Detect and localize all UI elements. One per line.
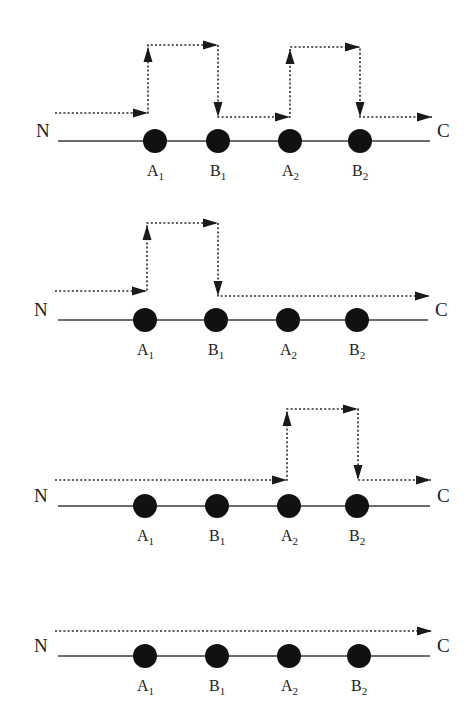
panel-2: A1B1A2B2NC: [34, 219, 448, 362]
start-label-n: N: [34, 485, 48, 506]
arrow-right-icon: [275, 113, 290, 122]
arrow-right-icon: [132, 287, 147, 296]
route-path: [55, 223, 430, 296]
node-a2: [277, 644, 301, 668]
arrow-right-icon: [203, 41, 218, 50]
node-label: B1: [209, 527, 225, 547]
arrow-right-icon: [203, 219, 218, 228]
node-a1: [143, 129, 167, 153]
node-b2: [347, 644, 371, 668]
end-label-c: C: [437, 485, 450, 506]
node-label: A1: [147, 162, 164, 182]
end-label-c: C: [437, 120, 450, 141]
end-label-c: C: [435, 299, 448, 320]
arrow-right-icon: [417, 627, 432, 636]
node-b1: [205, 494, 229, 518]
panel-3: A1B1A2B2NC: [34, 405, 450, 548]
node-label: B2: [349, 527, 365, 547]
arrow-right-icon: [415, 292, 430, 301]
arrow-right-icon: [343, 405, 358, 414]
arrow-right-icon: [345, 43, 360, 52]
arrow-up-icon: [144, 47, 153, 62]
arrow-down-icon: [214, 281, 223, 296]
end-label-c: C: [437, 635, 450, 656]
node-b1: [206, 129, 230, 153]
arrow-up-icon: [283, 411, 292, 426]
node-a2: [276, 308, 300, 332]
node-label: A1: [137, 527, 154, 547]
node-label: B2: [349, 341, 365, 361]
diagram-stage: A1B1A2B2NCA1B1A2B2NCA1B1A2B2NCA1B1A2B2NC: [0, 0, 474, 725]
arrow-right-icon: [416, 476, 431, 485]
arrow-down-icon: [356, 102, 365, 117]
node-label: B1: [210, 162, 226, 182]
node-label: A2: [282, 162, 299, 182]
node-label: A2: [280, 341, 297, 361]
node-b2: [348, 129, 372, 153]
node-a2: [277, 494, 301, 518]
arrow-down-icon: [214, 102, 223, 117]
route-path: [55, 409, 431, 480]
node-b1: [205, 644, 229, 668]
node-a2: [278, 129, 302, 153]
panel-4: A1B1A2B2NC: [34, 627, 450, 698]
node-label: A1: [137, 677, 154, 697]
node-a1: [133, 494, 157, 518]
start-label-n: N: [36, 120, 50, 141]
node-b2: [345, 308, 369, 332]
path-diagram: A1B1A2B2NCA1B1A2B2NCA1B1A2B2NCA1B1A2B2NC: [0, 0, 474, 725]
arrow-up-icon: [286, 49, 295, 64]
node-label: A2: [281, 527, 298, 547]
node-b1: [204, 308, 228, 332]
start-label-n: N: [34, 635, 48, 656]
node-a1: [133, 308, 157, 332]
arrow-down-icon: [354, 465, 363, 480]
arrow-right-icon: [133, 109, 148, 118]
node-label: A1: [137, 341, 154, 361]
node-label: B2: [351, 677, 367, 697]
arrow-right-icon: [272, 476, 287, 485]
node-label: B2: [352, 162, 368, 182]
node-a1: [133, 644, 157, 668]
node-label: B1: [208, 341, 224, 361]
arrow-right-icon: [417, 113, 432, 122]
start-label-n: N: [34, 299, 48, 320]
arrow-up-icon: [143, 225, 152, 240]
node-label: A2: [281, 677, 298, 697]
node-b2: [345, 494, 369, 518]
route-path: [55, 45, 432, 117]
node-label: B1: [209, 677, 225, 697]
panel-1: A1B1A2B2NC: [36, 41, 450, 183]
